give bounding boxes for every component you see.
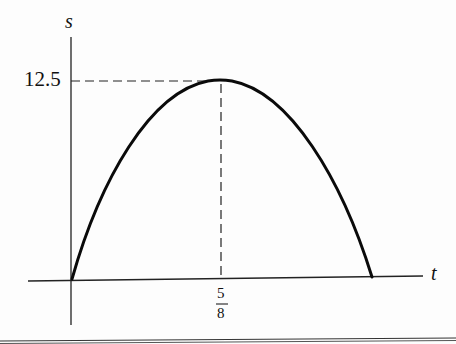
y-axis-label: s xyxy=(65,10,73,33)
parabola-curve xyxy=(72,80,372,279)
x-axis xyxy=(28,276,423,281)
parabola-figure: s t 12.5 5 8 xyxy=(0,0,456,344)
y-tick-label: 12.5 xyxy=(24,67,61,92)
x-tick-denominator: 8 xyxy=(217,305,225,322)
plot-canvas xyxy=(0,0,456,344)
x-tick-numerator: 5 xyxy=(217,285,225,302)
curve-helper xyxy=(72,15,372,279)
x-axis-label: t xyxy=(431,262,437,285)
